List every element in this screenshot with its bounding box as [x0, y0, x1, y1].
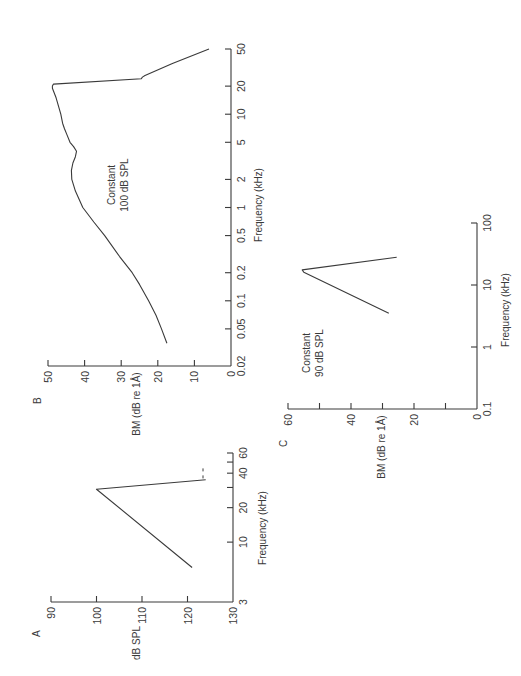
value-tick-label: 130 [227, 607, 239, 625]
value-tick-label: 20 [152, 371, 164, 383]
panel-b-letter: B [32, 397, 43, 404]
value-tick-label: 120 [182, 607, 194, 625]
panel-c-xlabel: Frequency (kHz) [500, 273, 511, 347]
value-tick-label: 110 [136, 607, 148, 624]
value-tick-label: 30 [115, 371, 127, 383]
frequency-tick-label: 40 [237, 467, 249, 479]
frequency-tick-label: 5 [235, 139, 247, 145]
frequency-tick-label: 0.2 [235, 265, 247, 280]
frequency-tick-label: 1 [235, 204, 247, 210]
frequency-tick-label: 2 [235, 176, 247, 182]
value-tick-label: 40 [79, 371, 91, 383]
value-tick-label: 0 [225, 371, 237, 377]
value-tick-label: 10 [188, 371, 200, 383]
frequency-tick-label: 0.05 [235, 318, 247, 339]
data-series-threshold [97, 480, 206, 568]
panel-c-annotation-line1: Constant [301, 333, 312, 373]
value-tick-label: 50 [42, 371, 54, 383]
panel-a-letter: A [31, 630, 42, 637]
value-tick-label: 20 [408, 414, 420, 426]
data-series-bm-response [52, 49, 209, 343]
panel-c-bm-response-90db-chart: 0.11101000204060 [282, 214, 493, 426]
value-tick-label: 60 [282, 414, 294, 426]
figure-canvas: 31020406090100110120130 0.020.050.10.20.… [0, 0, 521, 676]
panel-c-annotation-line2: 90 dB SPL [314, 329, 325, 377]
frequency-tick-label: 20 [235, 80, 247, 92]
value-tick-label: 40 [345, 414, 357, 426]
panel-a-xlabel: Frequency (kHz) [257, 491, 268, 565]
panel-a-threshold-chart: 31020406090100110120130 [45, 447, 249, 625]
panel-b-bm-response-100db-chart: 0.020.050.10.20.512510205001020304050 [42, 43, 247, 383]
frequency-tick-label: 3 [237, 599, 249, 605]
panel-b-xlabel: Frequency (kHz) [253, 168, 264, 242]
frequency-tick-label: 0.1 [235, 293, 247, 308]
panel-a-ylabel: dB SPL [131, 626, 142, 660]
value-tick-label: 100 [91, 607, 103, 625]
frequency-tick-label: 10 [237, 536, 249, 548]
panel-c-letter: C [278, 440, 289, 447]
data-series-bm-response [302, 257, 397, 313]
panel-b-ylabel: BM (dB re 1Å) [130, 372, 142, 435]
frequency-tick-label: 20 [237, 502, 249, 514]
value-tick-label: 90 [45, 607, 57, 619]
panel-b-annotation-line1: Constant [106, 165, 117, 205]
frequency-tick-label: 10 [481, 279, 493, 291]
value-tick-label: 0 [471, 414, 483, 420]
frequency-tick-label: 0.5 [235, 228, 247, 243]
frequency-tick-label: 10 [235, 108, 247, 120]
panel-b-annotation-line2: 100 dB SPL [119, 158, 130, 212]
panel-c-ylabel: BM (dB re 1Å) [375, 415, 387, 478]
frequency-tick-label: 50 [235, 43, 247, 55]
frequency-tick-label: 1 [481, 344, 493, 350]
frequency-tick-label: 60 [237, 447, 249, 459]
frequency-tick-label: 100 [481, 214, 493, 232]
